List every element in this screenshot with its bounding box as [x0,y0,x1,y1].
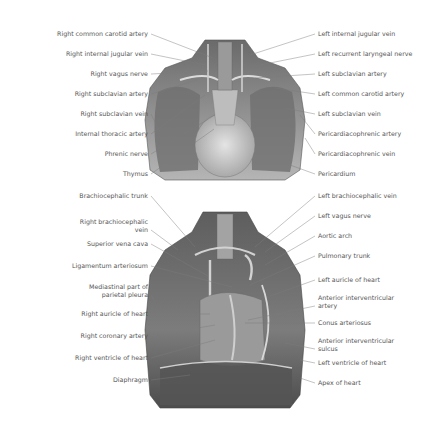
leader-line [151,230,178,250]
label-conus-arteriosus: Conus arteriosus [318,319,371,327]
label-pericardiacophrenic-artery: Pericardiacophrenic artery [318,130,401,138]
anatomy-figure: Right common carotid arteryRight interna… [0,0,448,432]
label-aortic-arch: Aortic arch [318,232,352,240]
leader-line [151,196,195,247]
label-mediastinal-part-of-parietal-pleura: Mediastinal part ofparietal pleura [89,283,148,299]
label-right-auricle-of-heart: Right auricle of heart [81,310,148,318]
label-right-ventricle-of-heart: Right ventricle of heart [75,354,148,362]
label-left-subclavian-vein: Left subclavian vein [318,110,381,118]
leader-line [305,138,315,154]
label-pericardium: Pericardium [318,170,355,178]
leader-line [265,216,315,252]
label-brachiocephalic-trunk: Brachiocephalic trunk [79,192,148,200]
label-superior-vena-cava: Superior vena cava [87,240,148,248]
label-right-subclavian-vein: Right subclavian vein [80,110,148,118]
leader-line [255,196,315,247]
label-pulmonary-trunk: Pulmonary trunk [318,252,370,260]
label-phrenic-nerve: Phrenic nerve [105,150,148,158]
label-apex-of-heart: Apex of heart [318,379,361,387]
label-anterior-interventricular-artery: Anterior interventricularartery [318,294,394,310]
label-right-vagus-nerve: Right vagus nerve [91,70,149,78]
label-right-subclavian-artery: Right subclavian artery [75,90,148,98]
label-ligamentum-arteriosum: Ligamentum arteriosum [72,262,148,270]
label-right-common-carotid-artery: Right common carotid artery [57,30,148,38]
label-thymus: Thymus [123,170,148,178]
label-right-coronary-artery: Right coronary artery [81,332,148,340]
label-left-ventricle-of-heart: Left ventricle of heart [318,359,386,367]
bottom-thorax-illustration [145,212,305,408]
label-left-recurrent-laryngeal-nerve: Left recurrent laryngeal nerve [318,50,412,58]
label-right-internal-jugular-vein: Right internal jugular vein [66,50,148,58]
label-left-common-carotid-artery: Left common carotid artery [318,90,404,98]
leader-line [250,34,315,55]
label-left-vagus-nerve: Left vagus nerve [318,212,371,220]
label-pericardiacophrenic-vein: Pericardiacophrenic vein [318,150,395,158]
label-left-subclavian-artery: Left subclavian artery [318,70,387,78]
label-left-internal-jugular-vein: Left internal jugular vein [318,30,395,38]
label-left-auricle-of-heart: Left auricle of heart [318,276,380,284]
label-diaphragm: Diaphragm [113,376,148,384]
label-right-brachiocephalic-vein: Right brachiocephalicvein [80,218,148,234]
thorax-illustrations [0,0,448,432]
label-anterior-interventricular-sulcus: Anterior interventricularsulcus [318,337,394,353]
leader-line [300,378,315,383]
label-internal-thoracic-artery: Internal thoracic artery [75,130,148,138]
label-left-brachiocephalic-vein: Left brachiocephalic vein [318,192,397,200]
